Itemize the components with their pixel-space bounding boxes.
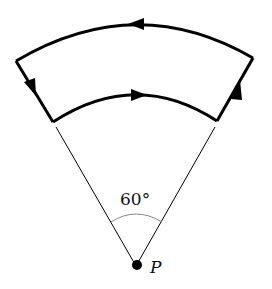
arrow-outer-left-icon [128,18,144,30]
current-loop [16,25,253,122]
point-label: P [149,257,162,277]
diagram-canvas: 60° P [0,0,272,289]
right-edge [217,58,253,121]
arrow-left-edge-down-icon [24,78,36,96]
point-p [132,260,142,270]
angle-arc [111,214,162,222]
outer-arc [16,25,253,61]
arrow-inner-right-icon [131,89,147,101]
angle-label: 60° [120,189,150,209]
